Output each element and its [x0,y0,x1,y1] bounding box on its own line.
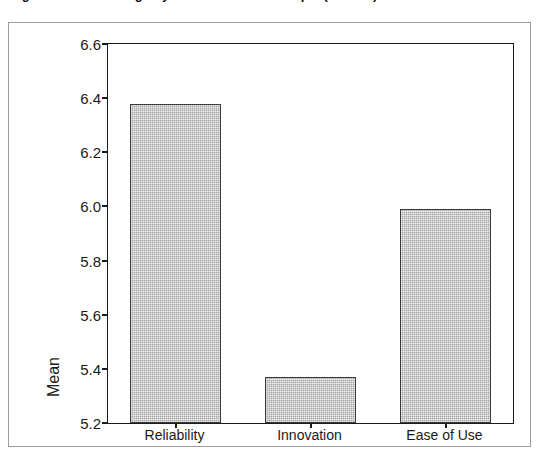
plot-box: 5.25.45.65.86.06.26.46.6 [107,43,514,424]
x-axis-category-label: Reliability [145,427,205,443]
y-axis-tick-label: 5.2 [80,415,101,432]
y-axis-tick-label: 5.8 [80,252,101,269]
y-axis-tick [102,368,108,370]
y-axis-tick [102,314,108,316]
bar-reliability[interactable] [130,104,222,423]
y-axis-tick-label: 5.4 [80,360,101,377]
x-axis-category-label: Innovation [277,427,342,443]
y-axis-tick-label: 5.6 [80,306,101,323]
plot-area: 5.25.45.65.86.06.26.46.6 [108,44,513,423]
y-axis-tick [102,43,108,45]
x-axis-category-label: Ease of Use [406,427,482,443]
figure-caption: Figure 4. Mean ratings by attribute for … [10,0,378,2]
y-axis-tick [102,97,108,99]
y-axis-title: Mean [43,23,65,404]
figure-frame: Mean 5.25.45.65.86.06.26.46.6 Reliabilit… [8,22,531,447]
y-axis-tick-label: 6.0 [80,198,101,215]
y-axis-tick [102,422,108,424]
y-axis-title-label: Mean [45,357,63,397]
y-axis-tick [102,205,108,207]
y-axis-tick-label: 6.6 [80,36,101,53]
y-axis-tick [102,151,108,153]
y-axis-tick-label: 6.4 [80,90,101,107]
bar-innovation[interactable] [265,377,357,423]
figure-caption-strip: Figure 4. Mean ratings by attribute for … [0,0,540,14]
bar-ease-of-use[interactable] [400,209,492,423]
y-axis-tick-label: 6.2 [80,144,101,161]
y-axis-tick [102,260,108,262]
